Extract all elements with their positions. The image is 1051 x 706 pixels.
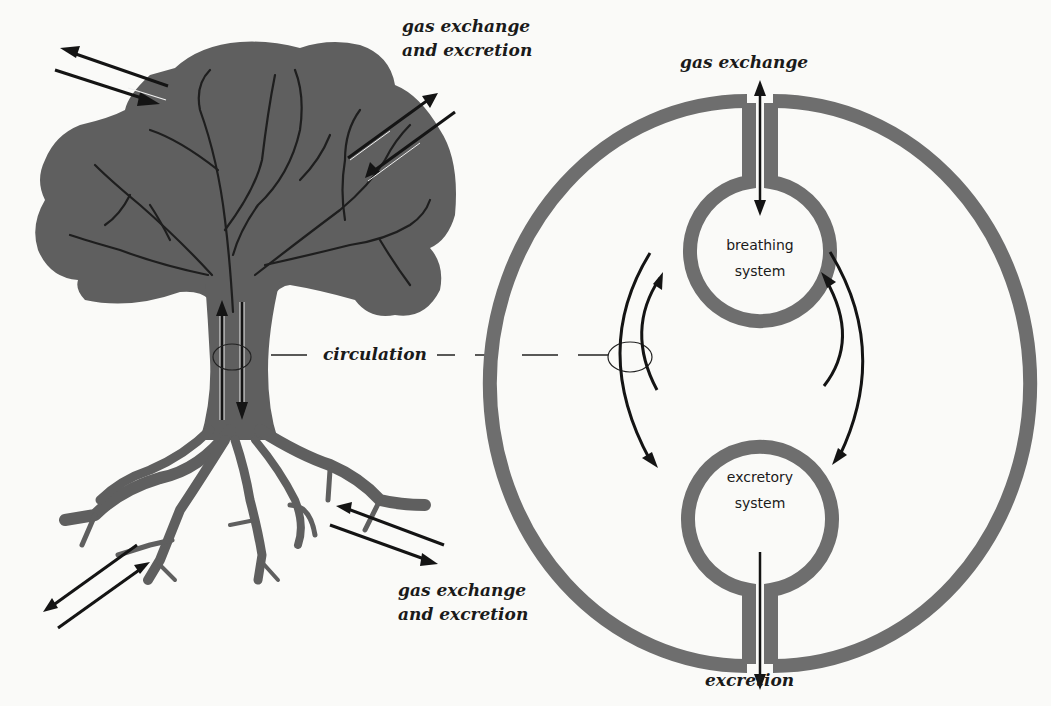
breathing-system-label: breathing system <box>700 232 820 284</box>
breathing-label-line2: system <box>700 258 820 284</box>
tree-bottom-label-line1: gas exchange <box>398 578 528 602</box>
root-exchange-arrows-right <box>330 502 444 566</box>
root-exchange-arrows-left <box>43 545 150 628</box>
excretory-label-line1: excretory <box>700 464 820 490</box>
tree-top-label: gas exchange and excretion <box>402 14 532 62</box>
excretion-label: excretion <box>705 668 794 692</box>
tree-top-label-line1: gas exchange <box>402 14 532 38</box>
tree-bottom-label-line2: and excretion <box>398 602 528 626</box>
diagram-stage: gas exchange and excretion gas exchange … <box>0 0 1051 706</box>
circulation-label: circulation <box>323 342 427 366</box>
tree-top-label-line2: and excretion <box>402 38 532 62</box>
left-down-arrowhead <box>642 452 658 468</box>
gas-exchange-label: gas exchange <box>680 50 808 74</box>
excretory-system-label: excretory system <box>700 464 820 516</box>
breathing-label-line1: breathing <box>700 232 820 258</box>
tree-bottom-label: gas exchange and excretion <box>398 578 528 626</box>
excretory-label-line2: system <box>700 490 820 516</box>
right-down-arrowhead <box>832 448 847 465</box>
